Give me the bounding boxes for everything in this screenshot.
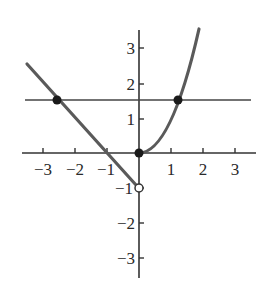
x-tick-label: 2 bbox=[199, 160, 208, 179]
y-tick-label: −1 bbox=[115, 179, 133, 198]
right-parabola-piece bbox=[139, 29, 199, 153]
open-circle-endpoint bbox=[135, 184, 143, 192]
y-tick-label: 3 bbox=[127, 39, 136, 58]
x-tick-label: 3 bbox=[231, 160, 240, 179]
y-tick-label: −3 bbox=[117, 249, 135, 268]
intersection-dot-right bbox=[174, 96, 183, 105]
y-tick-label: 1 bbox=[127, 110, 136, 129]
x-tick-label: −2 bbox=[66, 160, 84, 179]
intersection-dot-left bbox=[53, 96, 62, 105]
origin-closed-dot bbox=[135, 149, 144, 158]
y-tick-label: 2 bbox=[127, 75, 136, 94]
x-tick-label: 1 bbox=[167, 160, 176, 179]
x-tick-label: −1 bbox=[97, 160, 115, 179]
y-tick-label: −2 bbox=[117, 214, 135, 233]
x-tick-label: −3 bbox=[34, 160, 52, 179]
piecewise-function-graph: −3 −2 −1 1 2 3 3 2 1 −1 −2 −3 bbox=[0, 0, 276, 299]
